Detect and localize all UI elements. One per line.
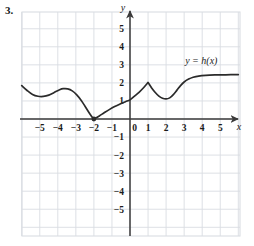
h-of-x-curve (148, 75, 238, 99)
y-tick-label: −3 (114, 169, 124, 179)
x-tick-label: 5 (218, 123, 223, 133)
function-label: y = h(x) (184, 55, 218, 67)
y-axis-name: y (120, 2, 126, 13)
x-tick-label: −4 (53, 123, 63, 133)
y-tick-label: 5 (119, 24, 124, 34)
curve-point-markers (92, 117, 97, 122)
y-tick-label: 3 (119, 60, 124, 70)
x-axis-name: x (236, 121, 242, 132)
y-tick-label: 2 (119, 78, 124, 88)
y-tick-label: −1 (114, 132, 124, 142)
y-tick-label: −5 (114, 205, 124, 215)
x-tick-label: 1 (146, 123, 151, 133)
axis-names: xy (120, 2, 242, 132)
curve-point-marker (92, 117, 97, 122)
x-tick-label: 2 (164, 123, 169, 133)
x-tick-label: 3 (182, 123, 187, 133)
coordinate-plane: −5−4−3−2−101234554321−1−2−3−4−5 y = h(x)… (0, 0, 254, 246)
x-tick-label: 4 (200, 123, 205, 133)
y-tick-label: −2 (114, 151, 124, 161)
x-tick-label: −2 (89, 123, 99, 133)
x-tick-label: −3 (71, 123, 81, 133)
y-tick-label: −4 (114, 187, 124, 197)
graph-figure: 3. −5−4−3−2−101234554321−1−2−3−4−5 y = h… (0, 0, 254, 246)
curve-annotations: y = h(x) (184, 55, 218, 67)
x-tick-label: 0 (132, 123, 137, 133)
y-tick-label: 4 (119, 42, 124, 52)
x-tick-label: −5 (35, 123, 45, 133)
